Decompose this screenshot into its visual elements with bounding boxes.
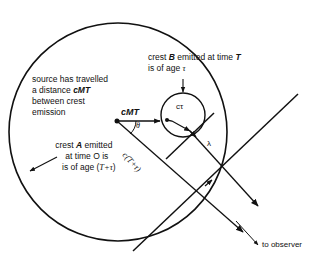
crest-b-var2: T <box>235 52 240 62</box>
crest-a-tangent-line <box>133 94 298 251</box>
source-note-line-2: a distance cMT <box>32 85 108 96</box>
crest-a-text-a: crest <box>55 140 76 150</box>
crest-a-age-text: is of age ( <box>62 162 99 172</box>
crest-b-line-2: is of age τ <box>148 63 241 74</box>
source-note-line-3: between crest <box>32 96 108 107</box>
crest-b-wavefront-circle <box>161 93 205 137</box>
crest-b-age-var: τ <box>183 63 186 73</box>
crest-a-line-1: crest A emitted <box>52 140 116 151</box>
crest-a-text-b: emitted <box>82 140 112 150</box>
c-T-tau-ray <box>117 121 243 232</box>
crest-a-line-2: at time O is <box>52 151 116 162</box>
crest-b-age-text: is of age <box>148 63 183 73</box>
source-note-var: cMT <box>73 85 90 95</box>
crest-a-age-close: ) <box>113 162 116 172</box>
crest-b-text-b: emitted at time <box>175 52 235 62</box>
to-observer-label: to observer <box>262 239 302 250</box>
source-note-prefix: a distance <box>32 85 73 95</box>
theta-label: θ <box>136 120 140 131</box>
c-tau-label: cτ <box>176 101 183 112</box>
source-note-line-4: emission <box>32 107 108 118</box>
c-tau-radius <box>167 120 190 131</box>
source-note-label: source has travelled a distance cMT betw… <box>32 74 108 118</box>
crest-b-line-1: crest B emitted at time T <box>148 52 241 63</box>
source-note-line-1: source has travelled <box>32 74 108 85</box>
crest-a-label: crest A emitted at time O is is of age (… <box>52 140 116 173</box>
lambda-label: λ <box>207 138 211 149</box>
crest-b-text-a: crest <box>148 52 169 62</box>
crest-b-tangent-line <box>166 113 214 159</box>
crest-a-line-3: is of age (T+τ) <box>52 162 116 173</box>
crest-b-label: crest B emitted at time T is of age τ <box>148 52 241 74</box>
to-observer-arrow <box>236 221 258 245</box>
diagram-canvas <box>0 0 314 258</box>
crest-a-age-var: T+τ <box>99 162 113 172</box>
cMT-label: cMT <box>121 107 139 118</box>
